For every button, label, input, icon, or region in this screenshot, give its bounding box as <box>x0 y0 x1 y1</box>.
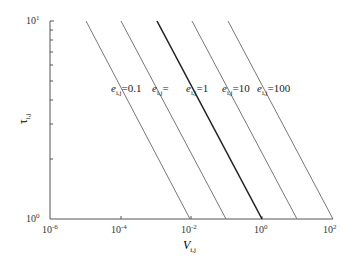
x-tick-10-2: 102 <box>323 223 337 235</box>
label-e-0.1: ei,j=0.1 <box>111 82 142 97</box>
y-tick-10-0: 100 <box>26 212 40 224</box>
x-axis-label: Vi,j <box>183 238 196 254</box>
x-tick-10-0: 100 <box>254 223 268 235</box>
y-axis-label: τi,j <box>16 113 32 124</box>
curve-e-100 <box>228 21 333 219</box>
curve-e-1 <box>157 21 262 219</box>
label-e-blank: ei,j= <box>152 82 169 97</box>
label-e-10: ei,j=10 <box>222 82 250 97</box>
chart: ei,j=0.1 ei,j= ei,j=1 ei,j=10 ei,j=100 1… <box>0 0 354 261</box>
y-tick-10-1: 101 <box>26 14 40 26</box>
curve-e-0.1 <box>86 21 190 219</box>
x-tick-10-neg6: 10-6 <box>42 223 58 235</box>
x-tick-10-neg4: 10-4 <box>111 223 127 235</box>
label-e-1: ei,j=1 <box>186 82 208 97</box>
x-tick-10-neg2: 10-2 <box>181 223 197 235</box>
curve-e-10 <box>192 21 297 219</box>
y-ticks <box>50 21 54 159</box>
